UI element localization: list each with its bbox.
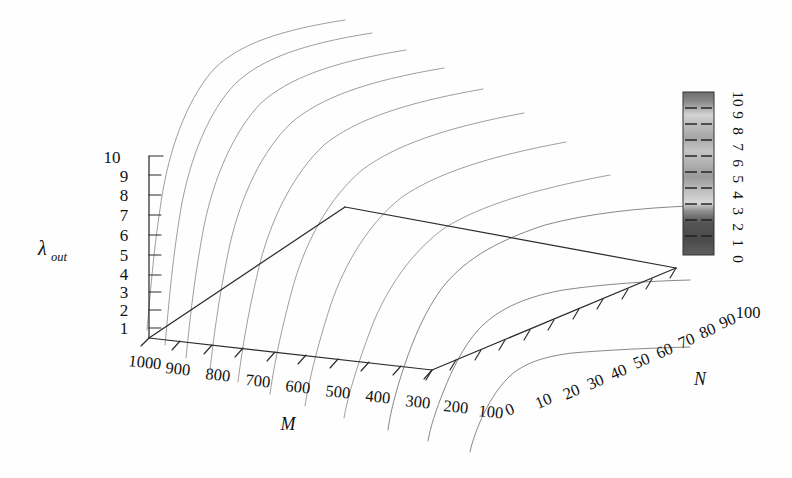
- colorbar[interactable]: 10 9 8 7 6 5 4 3 2 1 0: [683, 91, 747, 263]
- z-tick-label: 6: [120, 226, 129, 245]
- mesh-ridge-line: [270, 113, 524, 394]
- colorbar-label: 9: [730, 111, 747, 119]
- colorbar-label: 3: [730, 207, 747, 215]
- m-tick-label: 600: [285, 376, 312, 397]
- base-back-right-edge: [345, 207, 676, 268]
- z-tick-label: 9: [120, 167, 129, 186]
- mesh-ridge-line: [165, 33, 372, 345]
- n-tick-label: 20: [560, 380, 583, 404]
- n-axis: 0 10 20 30 40 50 60 70 80 90 100 N: [426, 268, 760, 420]
- m-axis-line: [149, 338, 432, 370]
- colorbar-label: 6: [730, 159, 747, 167]
- n-axis-tick-labels: 0 10 20 30 40 50 60 70 80 90 100: [502, 303, 760, 420]
- m-tick-label: 100: [478, 401, 505, 422]
- m-axis-tick-labels: 1000 900 800 700 600 500 400 300 200 100: [128, 351, 505, 422]
- z-tick-label: 2: [120, 301, 129, 320]
- colorbar-label: 10: [730, 91, 747, 107]
- base-plane: [149, 207, 676, 370]
- mesh-ridge-lines: [147, 20, 610, 418]
- m-axis-tick: [204, 345, 212, 354]
- colorbar-labels: 10 9 8 7 6 5 4 3 2 1 0: [730, 91, 747, 263]
- m-axis-tick: [172, 341, 180, 350]
- colorbar-gradient[interactable]: [683, 92, 714, 255]
- z-tick-label: 7: [120, 206, 129, 225]
- n-tick-label: 10: [532, 389, 555, 413]
- n-tick-label: 70: [675, 329, 698, 353]
- m-tick-label: 400: [365, 386, 392, 407]
- z-tick-label: 5: [120, 246, 129, 265]
- colorbar-label: 0: [730, 255, 747, 263]
- m-axis-tick: [298, 355, 306, 364]
- z-axis: 10 9 8 7 6 5 4 3 2 1 λ out: [37, 148, 163, 338]
- m-tick-label: 800: [205, 364, 232, 385]
- m-tick-label: 700: [245, 370, 272, 391]
- mesh-ridge-line: [186, 50, 406, 358]
- z-axis-title-symbol: λ: [37, 237, 47, 259]
- figure-canvas: 10 9 8 7 6 5 4 3 2 1 λ out: [0, 0, 792, 478]
- m-axis-tick: [361, 362, 369, 371]
- m-tick-label: 900: [165, 358, 192, 379]
- m-axis-tick: [267, 352, 275, 361]
- z-axis-title: λ out: [37, 237, 68, 264]
- colorbar-label: 5: [730, 175, 747, 183]
- m-tick-label: 500: [325, 381, 352, 402]
- z-tick-label: 10: [104, 148, 121, 167]
- m-axis-tick: [393, 366, 401, 375]
- colorbar-label: 8: [730, 127, 747, 135]
- m-axis-tick: [330, 359, 338, 368]
- colorbar-label: 4: [730, 191, 747, 199]
- n-axis-title: N: [693, 369, 707, 389]
- colorbar-label: 7: [730, 143, 747, 151]
- mesh-ridge-line: [147, 20, 345, 330]
- n-tick-label: 0: [502, 399, 517, 420]
- n-tick-label: 30: [584, 370, 607, 394]
- z-tick-label: 8: [120, 186, 129, 205]
- mesh-floor-line: [428, 280, 690, 441]
- z-tick-label: 4: [120, 265, 129, 284]
- m-axis-tick: [141, 338, 149, 346]
- m-tick-label: 200: [443, 396, 470, 417]
- m-axis: 1000 900 800 700 600 500 400 300 200 100…: [128, 338, 505, 434]
- m-tick-label: 300: [405, 391, 432, 412]
- z-axis-title-subscript: out: [51, 250, 68, 264]
- m-axis-title: M: [280, 414, 297, 434]
- surface-plot-svg: 10 9 8 7 6 5 4 3 2 1 λ out: [0, 0, 792, 478]
- n-tick-label: 100: [736, 303, 761, 322]
- z-tick-label: 1: [120, 319, 129, 338]
- mesh-ridge-line: [238, 89, 483, 382]
- mesh-surface: [147, 20, 690, 452]
- z-tick-label: 3: [120, 283, 129, 302]
- mesh-floor-line: [470, 347, 690, 452]
- n-tick-label: 40: [607, 360, 630, 384]
- n-tick-label: 60: [653, 339, 676, 363]
- colorbar-label: 2: [730, 223, 747, 231]
- n-tick-label: 80: [696, 319, 719, 343]
- n-tick-label: 50: [630, 349, 653, 373]
- colorbar-label: 1: [730, 239, 747, 247]
- m-tick-label: 1000: [128, 351, 163, 373]
- mesh-ridge-line: [305, 142, 566, 406]
